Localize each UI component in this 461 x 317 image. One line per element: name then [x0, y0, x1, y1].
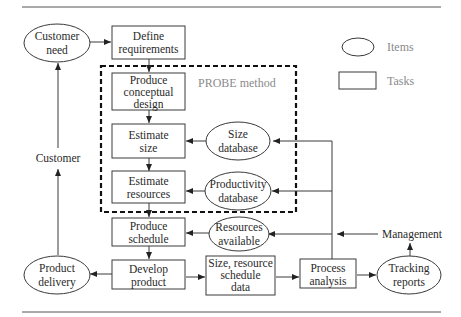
svg-text:Define: Define	[133, 30, 164, 42]
svg-text:Size: Size	[228, 128, 248, 140]
item-productivity-database: Productivity database	[205, 172, 271, 210]
svg-text:Product: Product	[39, 262, 76, 274]
svg-text:schedule: schedule	[220, 269, 260, 281]
svg-text:requirements: requirements	[118, 43, 179, 56]
probe-process-diagram: Items Tasks PROBE method	[0, 0, 461, 317]
svg-text:design: design	[133, 98, 163, 111]
item-tracking-reports: Tracking reports	[377, 256, 441, 294]
svg-text:Estimate: Estimate	[128, 175, 168, 187]
svg-text:Resources: Resources	[215, 221, 263, 233]
item-size-database: Size database	[206, 122, 270, 160]
svg-text:Produce: Produce	[130, 74, 168, 86]
item-customer-need: Customer need	[24, 24, 90, 62]
svg-text:database: database	[218, 142, 258, 154]
svg-text:analysis: analysis	[309, 275, 347, 288]
svg-text:Process: Process	[310, 262, 346, 274]
svg-text:Develop: Develop	[129, 263, 168, 276]
customer-label: Customer	[36, 152, 81, 164]
task-produce-schedule: Produce schedule	[112, 218, 185, 246]
svg-text:available: available	[218, 235, 260, 247]
task-process-analysis: Process analysis	[300, 259, 356, 288]
task-develop-product: Develop product	[112, 260, 185, 289]
svg-text:need: need	[46, 44, 68, 56]
task-produce-conceptual-design: Produce conceptual design	[112, 73, 185, 111]
svg-text:Productivity: Productivity	[210, 178, 267, 191]
svg-text:database: database	[218, 192, 258, 204]
item-resources-available: Resources available	[209, 217, 269, 251]
task-estimate-resources: Estimate resources	[112, 171, 185, 203]
svg-text:reports: reports	[393, 276, 425, 289]
probe-method-label: PROBE method	[198, 76, 276, 90]
svg-text:product: product	[131, 276, 167, 289]
svg-text:Tracking: Tracking	[388, 262, 429, 275]
svg-text:data: data	[231, 281, 250, 293]
management-label: Management	[382, 228, 443, 241]
svg-text:delivery: delivery	[38, 276, 76, 289]
task-define-requirements: Define requirements	[112, 26, 185, 59]
task-size-resource-schedule-data: Size, resource schedule data	[206, 256, 275, 295]
legend-items-label: Items	[387, 40, 414, 54]
svg-text:Customer: Customer	[35, 30, 80, 42]
legend-tasks-label: Tasks	[387, 74, 414, 88]
svg-text:schedule: schedule	[128, 233, 168, 245]
legend-task-rect	[339, 72, 376, 89]
item-product-delivery: Product delivery	[24, 256, 90, 294]
svg-text:Estimate: Estimate	[128, 129, 168, 141]
legend: Items Tasks	[339, 38, 414, 89]
svg-text:resources: resources	[127, 188, 171, 200]
svg-text:size: size	[140, 142, 158, 154]
svg-text:Produce: Produce	[130, 220, 168, 232]
legend-item-ellipse	[342, 38, 374, 56]
task-estimate-size: Estimate size	[112, 124, 185, 158]
